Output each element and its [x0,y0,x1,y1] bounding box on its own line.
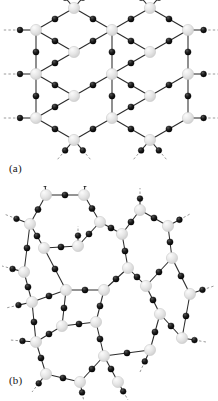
bridge-atom [122,248,128,254]
bridge-atom [166,38,172,44]
bridge-atom [17,71,23,77]
network-atom [182,24,193,35]
dangling-bonds-layer-a [2,0,218,160]
network-atom [68,2,79,13]
bridge-atom [201,71,207,77]
bridge-atom [52,82,58,88]
panel-a: (a) [0,0,218,186]
network-atom [78,189,89,200]
bridge-atom [35,206,41,212]
bridge-atom [90,82,96,88]
network-atom [116,228,127,239]
bridge-atom [80,148,86,154]
bridge-atom [97,336,103,342]
bridge-atom [90,38,96,44]
bridge-atom [58,244,64,250]
bridge-atom [89,205,95,211]
network-atom [154,308,165,319]
network-atom [162,220,173,231]
bridge-atom [156,148,162,154]
network-atom [106,112,117,123]
network-atom [144,344,155,355]
network-atom [140,280,151,291]
bridge-atom [177,217,183,223]
network-atom [182,68,193,79]
bridge-atom [134,274,140,280]
bridge-atom [76,321,82,327]
bridge-atom [166,82,172,88]
bridge-atom [89,366,95,372]
bridge-atom [10,266,16,272]
bridge-atom [52,266,58,272]
bridge-atom [109,49,115,55]
network-atom [68,46,79,57]
network-atom [56,320,67,331]
bridge-atom [142,359,148,365]
network-atom [144,2,155,13]
bridge-atom [108,225,114,231]
bridge-atom [90,126,96,132]
network-atom [90,316,101,327]
bridge-atom [75,233,81,239]
bridge-atom [150,297,156,303]
bridge-atom [31,319,37,325]
bridge-atom [33,49,39,55]
panel-b-label: (b) [9,375,22,386]
network-atom [184,288,195,299]
bridge-atom [192,337,198,343]
bridge-atom [138,148,144,154]
bridge-atom [137,196,143,202]
bridge-atom [108,366,114,372]
bridge-atom [152,329,158,335]
bridge-atom [60,375,66,381]
bridge-atom [17,115,23,121]
bridge-atom [61,305,67,311]
network-atom [30,68,41,79]
bridge-atom [201,115,207,121]
bridge-atom [178,273,184,279]
network-atom [30,336,41,347]
network-atom [38,242,49,253]
crystalline-network-diagram [0,0,218,186]
bridge-atom [156,269,162,275]
bridge-atom [151,215,157,221]
network-atom [166,252,177,263]
network-atoms-layer-b [18,189,195,387]
network-atom [144,134,155,145]
network-atom [106,24,117,35]
bridge-atom [185,49,191,55]
network-atom [68,90,79,101]
bridge-atom [33,93,39,99]
network-atom [134,204,145,215]
network-atom [74,376,85,387]
bridge-atom [128,219,134,225]
bridge-atom [52,38,58,44]
network-atom [40,189,51,200]
bridge-atom [52,126,58,132]
network-atom [60,284,71,295]
bridge-atom [86,231,92,237]
network-atom [106,68,117,79]
bridge-atom [128,16,134,22]
bridge-atom [166,16,172,22]
network-atom [122,262,133,273]
bridge-atom [97,303,103,309]
bridge-atom [38,355,44,361]
network-atom [98,350,109,361]
bridge-atom [167,239,173,245]
figure-root: (a) (b) [0,0,218,401]
bridge-atom [25,284,31,290]
bridge-atom [90,16,96,22]
bridge-atom [166,126,172,132]
bridge-atom [128,104,134,110]
network-atom [26,296,37,307]
bridge-atom [20,338,26,344]
bridge-atom [128,60,134,66]
network-atom [30,112,41,123]
network-atom [176,332,187,343]
bridge-atom [82,287,88,293]
bridge-atom [128,38,134,44]
bridge-atom [24,245,30,251]
network-atom [94,216,105,227]
bridge-atom [124,350,130,356]
